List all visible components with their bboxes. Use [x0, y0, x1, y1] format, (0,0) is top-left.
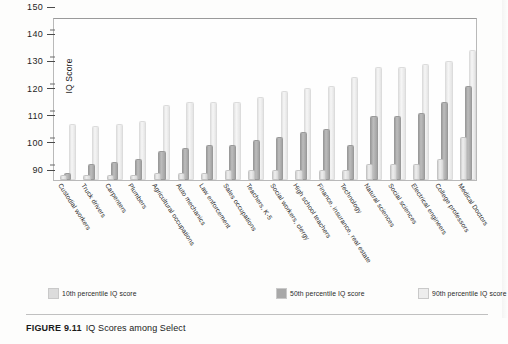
- bar-p10: [154, 173, 161, 180]
- y-axis-tick-mark: [47, 7, 55, 8]
- legend-swatch-icon: [418, 288, 429, 299]
- bar-p10: [107, 175, 114, 180]
- bars-layer: [54, 19, 476, 180]
- y-axis-tick-label: 140: [27, 29, 43, 39]
- y-axis-tick-140: 140: [27, 29, 54, 39]
- bar-p10: [130, 175, 137, 180]
- chart-legend: 10th percentile IQ score50th percentile …: [48, 288, 478, 302]
- y-axis-tick-110: 110: [28, 111, 54, 121]
- bar-p10: [225, 170, 232, 180]
- plot-area: IQ Score 90100110120130140150: [53, 18, 477, 181]
- bar-group: [460, 19, 474, 180]
- bar-p10: [319, 170, 326, 180]
- bar-group: [107, 19, 121, 180]
- x-axis-label: Technology: [340, 182, 365, 215]
- bar-group: [225, 19, 239, 180]
- bar-p10: [83, 175, 90, 180]
- bar-p90: [69, 124, 76, 180]
- y-axis-tick-130: 130: [27, 56, 54, 66]
- bar-p10: [460, 137, 467, 180]
- x-axis-label: Truck drivers: [80, 182, 107, 219]
- y-axis-tick-label: 100: [27, 138, 43, 148]
- bar-group: [366, 19, 380, 180]
- bar-group: [272, 19, 286, 180]
- bar-p10: [201, 173, 208, 180]
- bar-group: [413, 19, 427, 180]
- bar-p10: [295, 170, 302, 180]
- x-axis-label: Agricultural occupations: [151, 182, 196, 247]
- bar-group: [60, 19, 74, 180]
- bar-p10: [437, 159, 444, 180]
- y-axis-tick-100: 100: [27, 138, 54, 148]
- bar-group: [178, 19, 192, 180]
- bar-p10: [178, 173, 185, 180]
- bar-group: [248, 19, 262, 180]
- bar-group: [295, 19, 309, 180]
- bar-p10: [366, 164, 373, 180]
- bar-p10: [413, 164, 420, 180]
- y-axis-tick-90: 90: [32, 165, 54, 175]
- legend-label: 10th percentile IQ score: [62, 290, 137, 297]
- bar-group: [201, 19, 215, 180]
- legend-item: 90th percentile IQ score: [418, 288, 507, 299]
- y-axis-tick-label: 120: [27, 84, 43, 94]
- figure-root: IQ Score 90100110120130140150 Custodial …: [0, 0, 508, 344]
- bar-group: [342, 19, 356, 180]
- y-axis-tick-label: 90: [32, 165, 43, 175]
- bar-group: [390, 19, 404, 180]
- y-axis-tick-label: 150: [27, 2, 43, 12]
- x-axis-label: Social workers, clergy: [269, 182, 311, 241]
- legend-label: 90th percentile IQ score: [432, 290, 507, 297]
- figure-caption-text: IQ Scores among Select: [86, 323, 186, 333]
- legend-swatch-icon: [276, 288, 287, 299]
- bar-p10: [60, 175, 67, 180]
- y-axis-tick-label: 130: [27, 56, 43, 66]
- y-axis-tick-120: 120: [27, 84, 54, 94]
- page-edge-shading: [502, 0, 508, 318]
- legend-swatch-icon: [48, 288, 59, 299]
- x-axis-labels: Custodial workersTruck driversCarpenters…: [53, 182, 477, 278]
- bar-group: [437, 19, 451, 180]
- bar-group: [319, 19, 333, 180]
- caption-divider: [26, 314, 488, 315]
- figure-number: FIGURE 9.11: [26, 323, 82, 333]
- bar-group: [83, 19, 97, 180]
- x-axis-label: Plumbers: [128, 182, 149, 210]
- bar-p10: [248, 170, 255, 180]
- legend-item: 50th percentile IQ score: [276, 288, 365, 299]
- y-axis-tick-150: 150: [27, 2, 54, 12]
- figure-caption: FIGURE 9.11IQ Scores among Select: [26, 323, 185, 333]
- bar-group: [130, 19, 144, 180]
- y-axis-tick-label: 110: [28, 111, 43, 121]
- bar-p10: [390, 164, 397, 180]
- bar-group: [154, 19, 168, 180]
- bar-p10: [272, 170, 279, 180]
- x-axis-label: Carpenters: [104, 182, 128, 214]
- legend-item: 10th percentile IQ score: [48, 288, 137, 299]
- bar-p10: [342, 170, 349, 180]
- legend-label: 50th percentile IQ score: [290, 290, 365, 297]
